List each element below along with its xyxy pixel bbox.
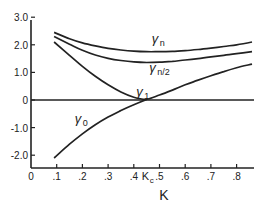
x-tick-label: 0 <box>28 171 34 182</box>
y-tick-label: 3.0 <box>14 12 28 23</box>
series-label-subscript-2: 1 <box>144 91 149 101</box>
y-tick-label: -2.0 <box>11 150 29 161</box>
series-label-2: γ <box>136 84 144 99</box>
series-labels: γnγn/2γ1γ0 <box>75 31 170 128</box>
x-tick-label: .1 <box>53 171 62 182</box>
axes: 3.02.01.00-1.0-2.00.1.2.3.4Kc.5.6.7.8 <box>11 12 254 185</box>
series-label-3: γ <box>75 111 83 126</box>
x-tick-label: .3 <box>104 171 113 182</box>
series-line-3 <box>54 99 147 158</box>
x-tick-label-kc-subscript: c <box>150 176 154 185</box>
x-tick-label: .7 <box>207 171 216 182</box>
series-label-subscript-0: n <box>160 38 165 48</box>
x-tick-label: .8 <box>232 171 241 182</box>
series-label-0: γ <box>152 31 160 46</box>
y-tick-label: -1.0 <box>11 123 29 134</box>
series-group <box>54 32 252 158</box>
y-tick-label: 0 <box>22 95 28 106</box>
x-tick-label: .4 <box>130 171 139 182</box>
series-label-subscript-3: 0 <box>83 118 88 128</box>
x-tick-label-kc: K <box>142 170 150 182</box>
y-tick-label: 2.0 <box>14 40 28 51</box>
x-tick-label: .5 <box>155 171 164 182</box>
series-label-subscript-1: n/2 <box>157 67 170 77</box>
x-tick-label: .6 <box>181 171 190 182</box>
chart: 3.02.01.00-1.0-2.00.1.2.3.4Kc.5.6.7.8 γn… <box>0 0 264 207</box>
x-axis-label: K <box>159 187 169 203</box>
y-tick-label: 1.0 <box>14 67 28 78</box>
x-tick-label: .2 <box>78 171 87 182</box>
